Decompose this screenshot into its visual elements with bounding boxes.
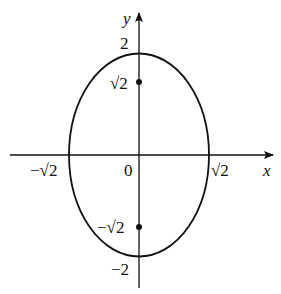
x-axis-label: x bbox=[262, 161, 271, 180]
x-neg-tick-label: −√2 bbox=[30, 161, 57, 180]
focus-bottom-point bbox=[136, 224, 142, 230]
ellipse-diagram: y x 0 2 −2 √2 −√2 −√2 √2 bbox=[0, 0, 281, 294]
origin-label: 0 bbox=[124, 161, 133, 180]
focus-top-label: √2 bbox=[110, 74, 128, 93]
focus-top-point bbox=[136, 79, 142, 85]
x-pos-tick-label: √2 bbox=[211, 161, 229, 180]
focus-bottom-label: −√2 bbox=[97, 218, 124, 237]
y-bottom-tick-label: −2 bbox=[111, 260, 129, 279]
y-axis-label: y bbox=[121, 9, 131, 28]
y-top-tick-label: 2 bbox=[120, 34, 129, 53]
